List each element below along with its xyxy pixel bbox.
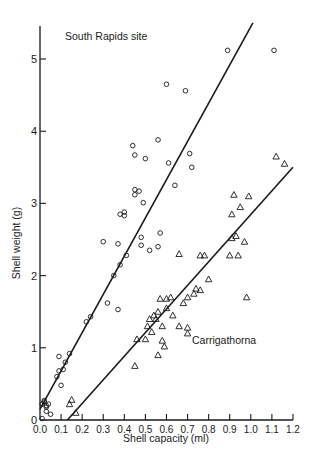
circle-marker [156,244,161,249]
circle-marker [59,383,64,388]
circle-marker [116,242,121,247]
triangle-marker [180,300,186,306]
circle-marker [133,153,138,158]
triangle-marker [229,211,235,217]
triangle-marker [66,401,72,407]
circle-marker [164,82,169,87]
triangle-marker [281,160,287,166]
circle-marker [48,412,53,417]
x-axis-label: Shell capacity (ml) [123,432,209,444]
circle-marker [139,243,144,248]
regression-line [67,167,293,420]
circle-marker [187,151,192,156]
triangle-marker [241,238,247,244]
circle-marker [156,138,161,143]
annotation-south-rapids: South Rapids site [65,30,147,42]
circle-marker [272,48,277,53]
circle-marker [158,231,163,236]
circle-marker [101,239,106,244]
triangle-marker [167,294,173,300]
x-tick-label: 0.2 [75,424,89,435]
triangle-marker [227,252,233,258]
circle-marker [189,165,194,170]
axes: 0.00.10.20.30.40.50.60.70.80.91.01.11.20… [31,26,300,435]
x-tick-label: 0.1 [54,424,68,435]
x-tick-label: 0.9 [223,424,237,435]
triangle-marker [245,193,251,199]
circle-marker [166,161,171,166]
fit-lines [40,23,293,420]
x-tick-label: 1.1 [265,424,279,435]
triangle-marker [68,397,74,403]
scatter-chart: 0.00.10.20.30.40.50.60.70.80.91.01.11.20… [0,0,316,465]
triangle-marker [184,330,190,336]
triangle-marker [155,309,161,315]
circle-marker [147,248,152,253]
circle-marker [116,307,121,312]
triangle-marker [149,329,155,335]
triangle-marker [231,192,237,198]
y-tick-label: 0 [31,414,37,426]
circle-marker [143,156,148,161]
y-tick-label: 1 [31,342,37,354]
x-tick-label: 1.2 [286,424,300,435]
triangle-marker [157,296,163,302]
circle-marker [105,301,110,306]
circle-marker [57,354,62,359]
triangle-marker [142,336,148,342]
triangle-marker [237,204,243,210]
triangle-marker [273,153,279,159]
circle-marker [130,143,135,148]
y-axis-label: Shell weight (g) [10,207,22,279]
triangle-marker [235,252,241,258]
triangle-marker [144,323,150,329]
triangle-marker [159,337,165,343]
triangle-marker [205,276,211,282]
circle-marker [133,192,138,197]
triangle-marker [184,294,190,300]
circle-marker [173,183,178,188]
triangle-marker [155,352,161,358]
circle-marker [141,200,146,205]
y-tick-label: 5 [31,53,37,65]
triangle-marker [243,294,249,300]
triangle-marker [176,323,182,329]
data-points [40,48,288,421]
triangle-marker [159,323,165,329]
y-tick-label: 3 [31,197,37,209]
triangle-marker [132,363,138,369]
circle-marker [183,88,188,93]
circle-marker [137,189,142,194]
y-tick-label: 2 [31,270,37,282]
x-tick-label: 1.0 [244,424,258,435]
triangle-marker [170,312,176,318]
circle-marker [139,235,144,240]
y-tick-label: 4 [31,125,37,137]
x-tick-label: 0.3 [96,424,110,435]
annotation-carrigathorna: Carrigathorna [192,334,256,346]
circle-marker [225,48,230,53]
triangle-marker [161,343,167,349]
regression-line [40,23,253,409]
triangle-marker [176,251,182,257]
